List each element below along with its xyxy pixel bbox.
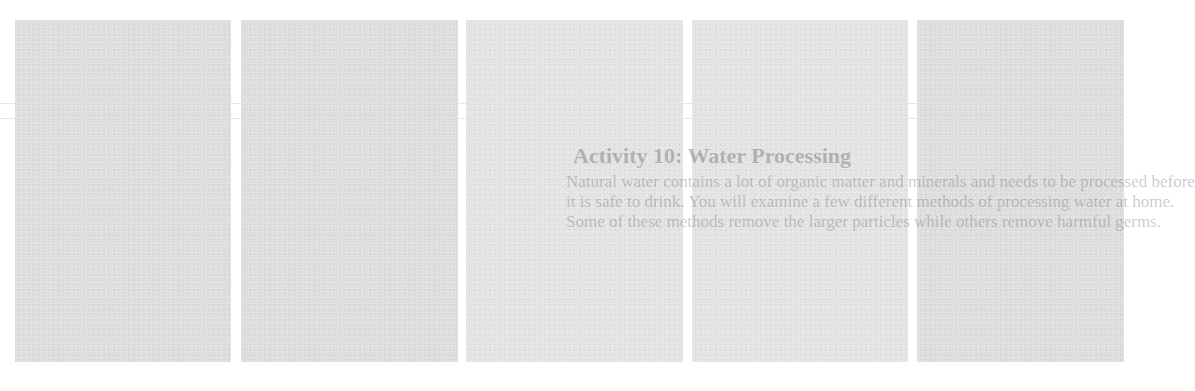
bleed-through-text-line: Natural water contains a lot of organic … xyxy=(566,172,1195,192)
gray-swatch-panel-2 xyxy=(241,20,458,362)
bleed-through-text-line: it is safe to drink. You will examine a … xyxy=(566,192,1174,212)
bleed-through-text-line: Some of these methods remove the larger … xyxy=(566,212,1161,232)
bleed-through-heading: Activity 10: Water Processing xyxy=(573,143,851,169)
gray-swatch-panel-1 xyxy=(15,20,231,362)
